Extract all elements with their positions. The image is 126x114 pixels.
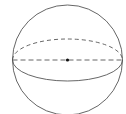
sphere-diagram (0, 0, 126, 114)
equator-back-dashed (13, 39, 123, 60)
equator-front-solid (13, 60, 123, 81)
center-point (66, 58, 69, 61)
